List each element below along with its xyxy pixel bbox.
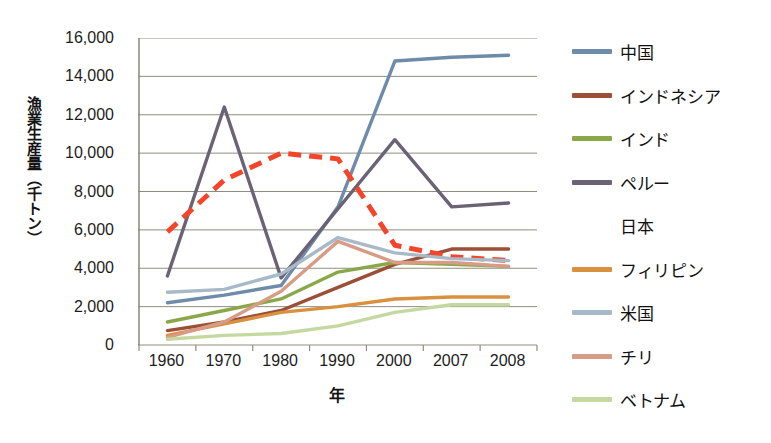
legend-swatch-インドネシア: [572, 93, 612, 98]
x-tick-label: 1980: [262, 352, 298, 370]
x-tick-label: 1990: [319, 352, 355, 370]
y-tick-label: 0: [42, 336, 114, 354]
x-axis-title: 年: [138, 382, 536, 406]
legend-swatch-中国: [572, 49, 612, 54]
y-axis-title: 漁業生産量（千トン）: [8, 96, 42, 246]
chart-legend: 中国インドネシアインドペルー日本フィリピン米国チリベトナム: [572, 30, 768, 422]
legend-swatch-チリ: [572, 354, 612, 359]
x-tick-label: 2000: [376, 352, 412, 370]
plot-area: [138, 38, 536, 345]
series-line-フィリピン: [167, 297, 508, 335]
legend-label: ペルー: [620, 170, 670, 195]
legend-label: インドネシア: [620, 83, 720, 108]
legend-item-中国: 中国: [572, 30, 768, 74]
y-tick-label: 6,000: [42, 221, 114, 239]
chart-figure: 漁業生産量（千トン） 02,0004,0006,0008,00010,00012…: [0, 0, 771, 443]
x-tick-label: 1970: [205, 352, 241, 370]
y-axis-tick-labels: 02,0004,0006,0008,00010,00012,00014,0001…: [42, 0, 114, 443]
legend-swatch-インド: [572, 136, 612, 141]
legend-item-インドネシア: インドネシア: [572, 74, 768, 118]
legend-label: 米国: [620, 300, 653, 325]
y-tick-label: 2,000: [42, 298, 114, 316]
legend-item-ペルー: ペルー: [572, 161, 768, 205]
legend-item-ベトナム: ベトナム: [572, 378, 768, 422]
legend-label: インド: [620, 126, 670, 151]
legend-item-インド: インド: [572, 117, 768, 161]
x-tick-label: 1960: [149, 352, 185, 370]
legend-item-チリ: チリ: [572, 335, 768, 379]
y-tick-label: 4,000: [42, 259, 114, 277]
legend-item-日本: 日本: [572, 204, 768, 248]
y-tick-label: 16,000: [42, 29, 114, 47]
legend-item-米国: 米国: [572, 291, 768, 335]
y-tick-label: 12,000: [42, 106, 114, 124]
legend-item-フィリピン: フィリピン: [572, 248, 768, 292]
legend-label: チリ: [620, 344, 653, 369]
legend-swatch-フィリピン: [572, 267, 612, 272]
legend-swatch-ペルー: [572, 180, 612, 185]
series-line-インド: [167, 262, 508, 321]
y-tick-label: 8,000: [42, 183, 114, 201]
legend-swatch-米国: [572, 310, 612, 315]
legend-label: 中国: [620, 39, 653, 64]
legend-swatch-日本: [572, 223, 612, 229]
chart-canvas: [138, 38, 538, 359]
series-line-ペルー: [167, 107, 508, 278]
legend-swatch-ベトナム: [572, 397, 612, 402]
legend-label: ベトナム: [620, 387, 686, 412]
x-axis-tick-labels: 1960197019801990200020072008: [138, 352, 536, 378]
x-tick-label: 2008: [490, 352, 526, 370]
y-tick-label: 10,000: [42, 144, 114, 162]
legend-label: 日本: [620, 213, 653, 238]
x-tick-label: 2007: [433, 352, 469, 370]
legend-label: フィリピン: [620, 257, 704, 282]
y-tick-label: 14,000: [42, 67, 114, 85]
